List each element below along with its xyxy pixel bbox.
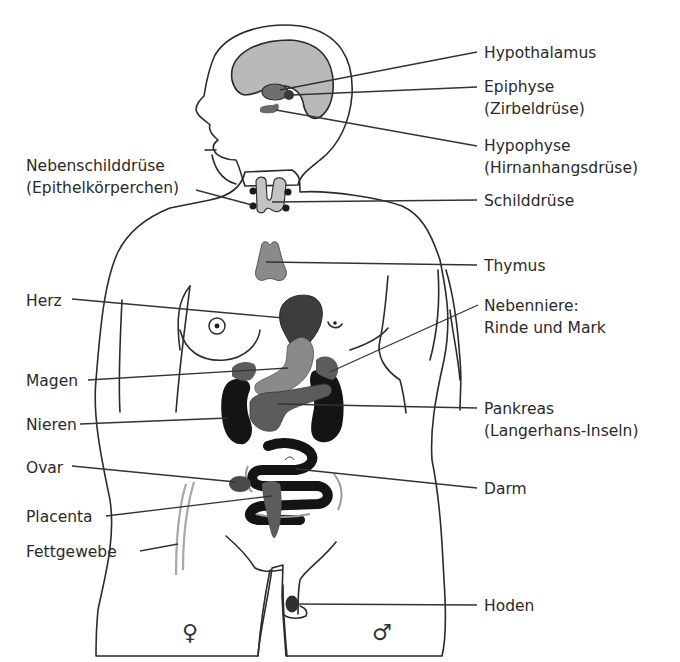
endocrine-diagram: ♀ ♂ Hypothalamus Epiphyse (Zirbeldrüse) … xyxy=(0,0,680,662)
label-epiphyse: Epiphyse xyxy=(484,78,554,96)
parathyroid-gland xyxy=(283,205,290,212)
label-herz: Herz xyxy=(26,292,62,310)
label-hypothalamus: Hypothalamus xyxy=(484,44,596,62)
label-fettgewebe: Fettgewebe xyxy=(26,543,117,561)
fat-tissue xyxy=(176,482,194,575)
right-torso-line xyxy=(379,276,406,413)
label-hypophyse-alt: (Hirnanhangsdrüse) xyxy=(484,159,638,177)
left-arm-outer xyxy=(119,300,122,412)
label-nebenniere: Nebenniere: xyxy=(484,297,579,315)
label-hoden: Hoden xyxy=(484,597,534,615)
right-groin-line xyxy=(298,542,336,614)
parathyroid-gland xyxy=(285,189,292,196)
hypothalamus-organ xyxy=(262,84,288,100)
thyroid-organ xyxy=(256,177,286,213)
right-arm-inner xyxy=(430,270,439,360)
intestine xyxy=(246,443,342,520)
label-thymus: Thymus xyxy=(483,257,545,275)
label-darm: Darm xyxy=(484,480,527,498)
parathyroid-gland xyxy=(250,203,257,210)
breast-outline xyxy=(180,330,260,360)
label-ovar: Ovar xyxy=(26,459,64,477)
labels: Hypothalamus Epiphyse (Zirbeldrüse) Hypo… xyxy=(26,44,638,615)
female-symbol: ♀ xyxy=(182,620,198,645)
label-epiphyse-alt: (Zirbeldrüse) xyxy=(484,100,585,118)
label-nebenniere-detail: Rinde und Mark xyxy=(484,319,606,337)
left-arm-inner xyxy=(176,286,190,412)
right-arm-outline xyxy=(446,270,461,410)
nipple-left-dot xyxy=(215,324,220,329)
ovary-organ xyxy=(229,476,251,492)
label-nieren: Nieren xyxy=(26,416,77,434)
label-schilddruese: Schilddrüse xyxy=(484,192,574,210)
label-pankreas: Pankreas xyxy=(484,400,554,418)
label-hypophyse: Hypophyse xyxy=(484,137,571,155)
label-nebenschilddruese-alt: (Epithelkörperchen) xyxy=(26,179,179,197)
label-placenta: Placenta xyxy=(26,508,93,526)
thymus-organ xyxy=(255,242,286,281)
nipple-right-dot xyxy=(333,321,337,325)
body-silhouette xyxy=(95,25,461,656)
label-nebenschilddruese: Nebenschilddrüse xyxy=(26,157,165,175)
male-symbol: ♂ xyxy=(372,620,392,645)
body-illustration: ♀ ♂ Hypothalamus Epiphyse (Zirbeldrüse) … xyxy=(0,0,680,662)
label-pankreas-alt: (Langerhans-Inseln) xyxy=(484,422,638,440)
hypophyse-organ xyxy=(260,103,279,113)
kidney-left xyxy=(221,379,252,445)
left-groin-line xyxy=(226,536,282,571)
brain xyxy=(232,40,334,118)
label-magen: Magen xyxy=(26,372,78,390)
parathyroid-gland xyxy=(250,188,257,195)
